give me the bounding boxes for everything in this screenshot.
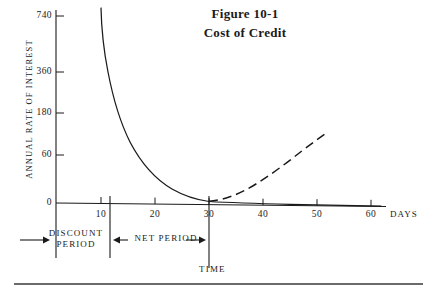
net-period-arrow-head-left-icon xyxy=(113,237,120,244)
chart-plot-area xyxy=(0,0,437,295)
figure-container: Figure 10-1 Cost of Credit ANNUAL RATE O… xyxy=(0,0,437,295)
projected-cost-dashed-curve xyxy=(209,134,325,201)
discount-period-arrow-head-icon xyxy=(43,237,50,244)
cost-of-credit-curve xyxy=(101,8,381,206)
net-period-arrow-head-right-icon xyxy=(199,237,206,244)
